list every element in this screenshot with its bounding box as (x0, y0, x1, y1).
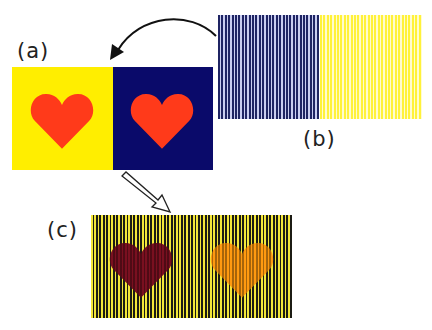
orange-heart-icon (209, 241, 275, 299)
hollow-arrow-icon (118, 170, 178, 216)
grating-yellow-panel (320, 15, 422, 119)
red-heart-icon (129, 92, 195, 150)
dark-red-heart-icon (108, 241, 174, 299)
label-c: (c) (47, 218, 78, 242)
label-b: (b) (303, 127, 336, 151)
grating-navy-panel (218, 15, 319, 119)
yellow-background-panel (12, 67, 113, 170)
label-a: (a) (17, 39, 49, 63)
curved-arrow-icon (100, 8, 230, 68)
striped-grating-panel (91, 215, 292, 318)
red-heart-icon (29, 92, 95, 150)
navy-background-panel (113, 67, 213, 170)
